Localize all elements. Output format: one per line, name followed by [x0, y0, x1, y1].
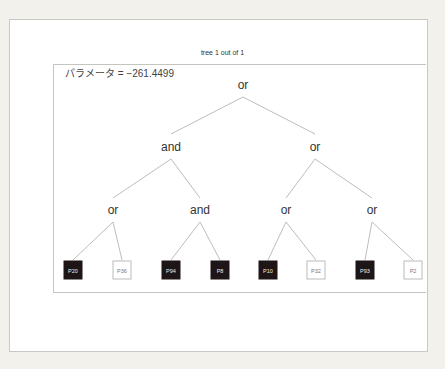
leaf-node: P94: [162, 261, 181, 280]
node-l3-1: or: [108, 203, 119, 217]
root-node: or: [238, 78, 249, 92]
leaf-node: P10: [259, 261, 278, 280]
tree-edges: [0, 0, 445, 369]
leaf-node: P93: [356, 261, 375, 280]
leaf-node: P20: [64, 261, 83, 280]
node-l3-3: or: [281, 203, 292, 217]
leaf-node: P32: [307, 261, 326, 280]
leaf-node: P36: [113, 261, 132, 280]
leaf-node: P8: [211, 261, 230, 280]
node-and-l2: and: [161, 140, 181, 154]
leaf-node: P2: [404, 261, 423, 280]
node-l3-2: and: [190, 203, 210, 217]
node-or-l2: or: [310, 140, 321, 154]
node-l3-4: or: [367, 203, 378, 217]
